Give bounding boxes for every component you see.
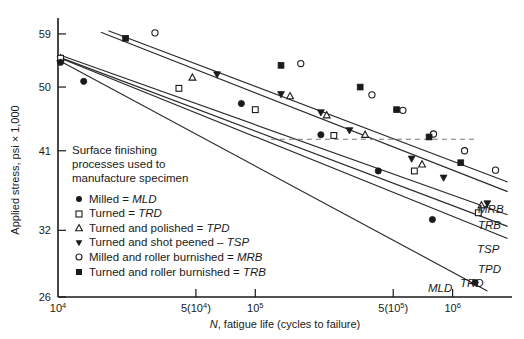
legend-item-code: TSP (227, 236, 249, 248)
data-point-mrb (369, 92, 375, 98)
x-tick-label: 105 (247, 301, 263, 315)
data-point-trd (411, 168, 417, 174)
legend-item-process: Turned and shot peened – (89, 236, 227, 248)
legend-item-code: TRD (138, 207, 162, 219)
data-point-mrb (492, 167, 498, 173)
data-point-trb (123, 35, 129, 41)
legend-item-tsp: Turned and shot peened – TSP (72, 235, 287, 250)
data-point-mld (81, 78, 87, 84)
end-label-tsp: TSP (477, 243, 500, 255)
data-point-tsp (440, 175, 447, 181)
data-point-tpd (362, 131, 369, 137)
legend-item-label: Turned and roller burnished = TRB (89, 265, 266, 280)
data-point-mrb (461, 148, 467, 154)
data-point-mld (57, 59, 63, 65)
data-point-trd (331, 133, 337, 139)
svg-text:N, fatigue life (cycles to fai: N, fatigue life (cycles to failure) (210, 318, 360, 330)
data-point-mrb (298, 60, 304, 66)
data-point-trb (458, 160, 464, 166)
legend-item-code: TRB (243, 266, 266, 278)
y-tick-label: 59 (39, 28, 51, 40)
data-point-tpd (189, 74, 196, 80)
legend-item-tpd: Turned and polished = TPD (72, 221, 287, 236)
x-tick-label: 106 (444, 301, 460, 315)
data-point-mld (429, 216, 435, 222)
x-axis-ticks: 1045(104)1055(105)106 (50, 289, 461, 314)
circle-open-icon (72, 251, 86, 263)
legend-item-mrb: Milled and roller burnished = MRB (72, 250, 287, 265)
legend-title-line-1: Surface finishing (72, 143, 287, 157)
legend-item-trd: Turned = TRD (72, 206, 287, 221)
end-label-trd: TRD (460, 277, 484, 289)
data-point-trb (357, 84, 363, 90)
x-tick-label: 5(105) (378, 301, 408, 315)
data-point-trb (394, 107, 400, 113)
square-open-icon (72, 208, 86, 220)
y-axis-ticks: 5950413226 (39, 28, 66, 303)
end-label-trb: TRB (478, 219, 501, 231)
legend-item-process: Milled = (89, 193, 132, 205)
data-point-trd (252, 107, 258, 113)
data-point-trb (426, 134, 432, 140)
data-point-tpd (419, 161, 426, 167)
legend: Surface finishing processes used to manu… (72, 143, 287, 279)
data-point-tsp (408, 156, 415, 162)
x-axis-title: N, fatigue life (cycles to failure) (210, 318, 360, 330)
legend-title-line-2: processes used to (72, 157, 287, 171)
end-label-tpd: TPD (478, 263, 501, 275)
y-axis-title: Applied stress, psi × 1,000 (9, 105, 21, 234)
legend-item-code: TPD (207, 222, 230, 234)
legend-title: Surface finishing processes used to manu… (72, 143, 287, 186)
legend-item-label: Milled and roller burnished = MRB (89, 250, 263, 265)
legend-item-label: Turned and polished = TPD (89, 221, 230, 236)
legend-item-process: Turned and polished = (89, 222, 207, 234)
data-point-mrb (152, 30, 158, 36)
data-point-tpd (287, 93, 294, 99)
triangle-down-filled-icon (72, 237, 86, 249)
legend-item-label: Milled = MLD (89, 192, 156, 207)
y-tick-label: 32 (39, 224, 51, 236)
data-point-mld (318, 132, 324, 138)
legend-items: Milled = MLDTurned = TRDTurned and polis… (72, 192, 287, 280)
data-point-tsp (317, 110, 324, 116)
data-point-mld (375, 168, 381, 174)
data-point-trb (278, 62, 284, 68)
y-tick-label: 50 (39, 81, 51, 93)
triangle-up-open-icon (72, 222, 86, 234)
x-tick-label: 104 (50, 301, 66, 315)
legend-item-process: Turned = (89, 207, 138, 219)
circle-filled-icon (72, 193, 86, 205)
legend-item-mld: Milled = MLD (72, 192, 287, 207)
y-tick-label: 41 (39, 145, 51, 157)
legend-item-label: Turned = TRD (89, 206, 162, 221)
legend-item-label: Turned and shot peened – TSP (89, 235, 249, 250)
series-end-labels: MRBTRBTSPTPDTRDMLD (428, 203, 504, 294)
square-filled-icon (72, 266, 86, 278)
data-point-trd (176, 85, 182, 91)
legend-item-trb: Turned and roller burnished = TRB (72, 265, 287, 280)
x-tick-label: 5(104) (181, 301, 211, 315)
data-point-mld (238, 100, 244, 106)
legend-item-process: Turned and roller burnished = (89, 266, 243, 278)
end-label-mld: MLD (428, 282, 452, 294)
legend-item-process: Milled and roller burnished = (89, 251, 237, 263)
data-point-mrb (400, 107, 406, 113)
chart-figure: 5950413226 1045(104)1055(105)106 MRBTRBT… (0, 0, 524, 339)
end-label-mrb: MRB (478, 203, 504, 215)
legend-title-line-3: manufacture specimen (72, 171, 287, 185)
svg-text:Applied stress, psi × 1,000: Applied stress, psi × 1,000 (9, 105, 21, 234)
legend-item-code: MRB (237, 251, 263, 263)
legend-item-code: MLD (132, 193, 156, 205)
